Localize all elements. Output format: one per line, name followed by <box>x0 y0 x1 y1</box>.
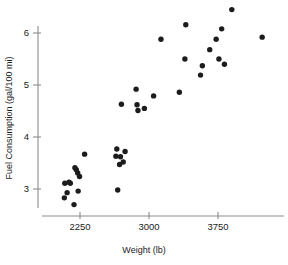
data-point <box>133 86 138 91</box>
data-point <box>115 187 120 192</box>
y-tick-label: 5 <box>24 79 29 90</box>
data-point <box>122 149 127 154</box>
data-point <box>222 61 227 66</box>
data-point <box>135 108 140 113</box>
data-point <box>68 181 73 186</box>
plot-area: 3456 225030003750 Weight (lb) Fuel Consu… <box>0 0 288 265</box>
data-point <box>121 159 126 164</box>
data-point <box>62 195 67 200</box>
data-point <box>177 90 182 95</box>
data-point <box>213 37 218 42</box>
data-point <box>75 188 80 193</box>
y-tick-label: 6 <box>24 27 29 38</box>
y-tick-label: 3 <box>24 183 29 194</box>
data-point <box>229 7 234 12</box>
data-point <box>77 174 82 179</box>
data-point <box>151 93 156 98</box>
data-point <box>183 22 188 27</box>
data-point <box>259 34 264 39</box>
x-tick-label: 3750 <box>207 221 228 232</box>
data-point <box>219 26 224 31</box>
data-point <box>207 47 212 52</box>
y-axis-title: Fuel Consumption (gal/100 mi) <box>4 56 14 179</box>
data-point <box>200 63 205 68</box>
x-axis-title: Weight (lb) <box>122 245 165 255</box>
data-point <box>182 56 187 61</box>
data-point <box>216 56 221 61</box>
data-point <box>118 154 123 159</box>
data-points <box>62 7 265 207</box>
data-point <box>119 102 124 107</box>
scatter-plot-figure: 3456 225030003750 Weight (lb) Fuel Consu… <box>0 0 288 265</box>
y-tick-label: 4 <box>24 131 29 142</box>
data-point <box>142 106 147 111</box>
data-point <box>113 154 118 159</box>
x-tick-label: 2250 <box>69 221 90 232</box>
data-point <box>134 102 139 107</box>
data-point <box>71 202 76 207</box>
chart-canvas: 3456 225030003750 Weight (lb) Fuel Consu… <box>0 0 288 265</box>
x-tick-label: 3000 <box>138 221 159 232</box>
x-axis-ticks: 225030003750 <box>69 212 228 232</box>
data-point <box>114 146 119 151</box>
data-point <box>158 37 163 42</box>
data-point <box>198 72 203 77</box>
data-point <box>64 190 69 195</box>
data-point <box>82 151 87 156</box>
